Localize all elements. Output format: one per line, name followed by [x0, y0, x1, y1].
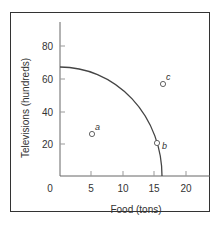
- point-c-label: c: [166, 72, 171, 82]
- x-tick-0: 0: [47, 183, 53, 194]
- x-tick-20: 20: [180, 183, 192, 194]
- y-tick-80: 80: [42, 41, 54, 52]
- y-tick-60: 60: [42, 74, 54, 85]
- point-a: [89, 131, 94, 136]
- x-tick-10: 10: [117, 183, 129, 194]
- y-axis-title: Televisions (hundreds): [20, 58, 31, 158]
- x-ticks: [91, 171, 186, 176]
- point-a-label: a: [95, 122, 100, 132]
- y-tick-40: 40: [42, 107, 54, 118]
- x-tick-5: 5: [88, 183, 94, 194]
- y-ticks: [60, 46, 65, 144]
- point-b-label: b: [162, 141, 167, 151]
- ppf-chart: 80 60 40 20 0 5 10 15 20 Food (tons) Tel…: [0, 0, 222, 232]
- ppf-curve: [60, 67, 162, 176]
- x-tick-15: 15: [148, 183, 160, 194]
- point-c: [160, 81, 165, 86]
- y-tick-20: 20: [42, 139, 54, 150]
- x-axis-title: Food (tons): [110, 204, 161, 215]
- point-b: [154, 140, 159, 145]
